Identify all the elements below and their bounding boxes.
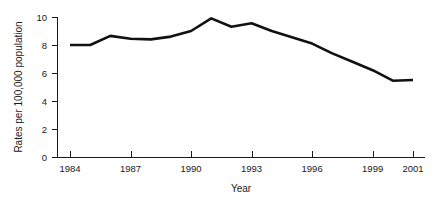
y-axis-ticks [52,18,58,158]
x-tick-label: 1999 [362,163,383,174]
x-axis-title: Year [231,183,252,194]
y-tick-label: 4 [42,96,47,107]
data-series-group [70,18,413,80]
y-tick-label: 10 [36,12,47,23]
x-tick-label: 1990 [180,163,201,174]
chart-canvas: 0246810 1984198719901993199619992001 Yea… [0,0,445,203]
x-tick-label: 1996 [302,163,323,174]
x-tick-label: 2001 [402,163,423,174]
y-tick-label: 6 [42,68,47,79]
x-axis: 1984198719901993199619992001 [58,151,426,174]
y-tick-label: 0 [42,152,47,163]
data-series-line [70,18,413,80]
y-axis-title: Rates per 100,000 population [13,21,24,152]
x-tick-label: 1984 [59,163,80,174]
line-chart-figure: 0246810 1984198719901993199619992001 Yea… [0,0,445,203]
x-axis-tick-labels: 1984198719901993199619992001 [59,163,423,174]
x-tick-label: 1993 [241,163,262,174]
x-axis-ticks [71,151,414,158]
y-axis-tick-labels: 0246810 [36,12,47,163]
y-axis: 0246810 [36,12,57,163]
y-tick-label: 2 [42,124,47,135]
y-tick-label: 8 [42,40,47,51]
x-tick-label: 1987 [120,163,141,174]
